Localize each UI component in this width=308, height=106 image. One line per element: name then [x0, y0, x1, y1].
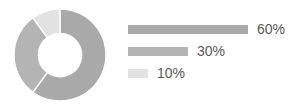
- legend-bar-60: [128, 25, 248, 34]
- legend-bar-10: [128, 69, 148, 78]
- legend-label-30: 30%: [197, 44, 225, 58]
- legend-label-60: 60%: [257, 22, 285, 36]
- legend-item-30[interactable]: 30%: [128, 40, 225, 62]
- legend-item-60[interactable]: 60%: [128, 18, 285, 40]
- donut-slices: [14, 9, 106, 101]
- donut-chart: [12, 7, 108, 103]
- legend-bar-30: [128, 47, 188, 56]
- donut-svg: [12, 7, 108, 103]
- chart-legend: 60% 30% 10%: [128, 18, 304, 90]
- donut-chart-figure: 60% 30% 10%: [0, 0, 308, 106]
- legend-item-10[interactable]: 10%: [128, 62, 185, 84]
- legend-label-10: 10%: [157, 66, 185, 80]
